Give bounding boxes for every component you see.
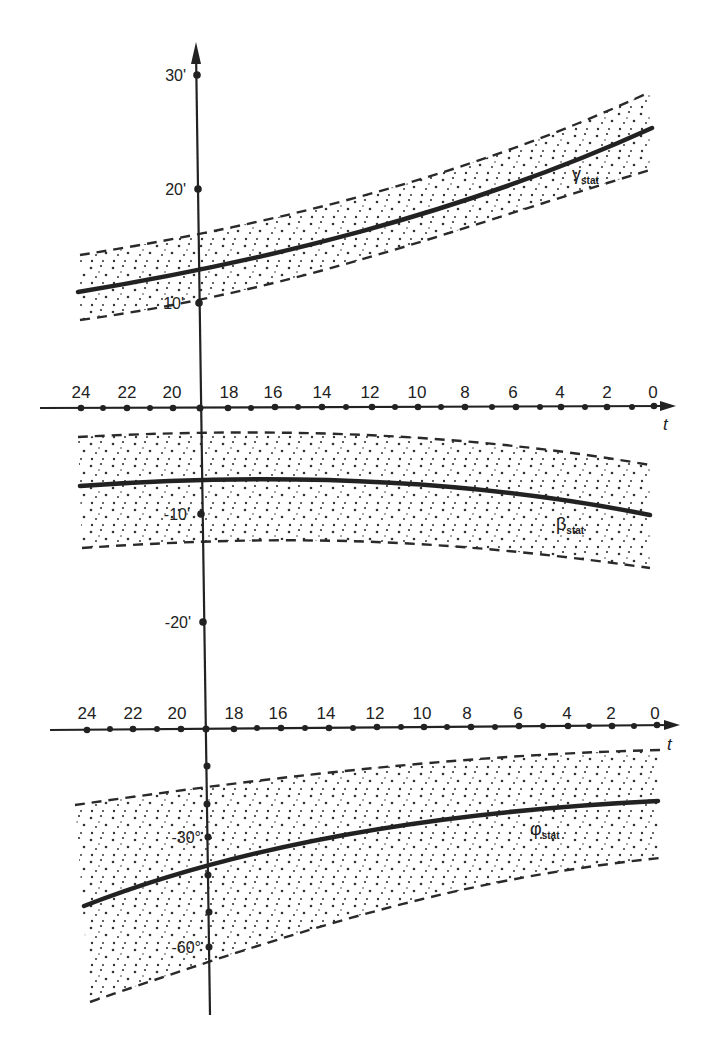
svg-text:20: 20 xyxy=(163,383,182,402)
svg-text:8: 8 xyxy=(462,704,471,723)
y-tick-label-20min: 20' xyxy=(165,181,186,198)
t-axis-2: 24 22 20 18 16 14 12 10 8 6 4 2 0 t xyxy=(50,704,680,754)
phi-panel: φstat xyxy=(75,750,660,1002)
svg-text:16: 16 xyxy=(269,704,288,723)
svg-text:4: 4 xyxy=(555,383,564,402)
svg-text:0: 0 xyxy=(650,704,659,723)
svg-text:4: 4 xyxy=(562,704,571,723)
gamma-panel: γstat xyxy=(78,92,652,320)
chart-figure: γstat βstat φstat xyxy=(0,0,717,1060)
svg-text:16: 16 xyxy=(264,383,283,402)
y-tick-label-neg30deg: -30° xyxy=(171,829,201,846)
y-tick-label-neg60deg: -60° xyxy=(171,939,201,956)
t-axis-1-label: t xyxy=(663,415,669,434)
svg-text:10: 10 xyxy=(413,704,432,723)
y-axis-arrow-icon xyxy=(191,42,201,64)
svg-text:10: 10 xyxy=(408,383,427,402)
svg-text:12: 12 xyxy=(361,383,380,402)
t-axis-1: 24 22 20 18 16 14 12 10 8 6 4 2 0 t xyxy=(40,383,676,434)
svg-text:0: 0 xyxy=(648,383,657,402)
t-axis-1-arrow-icon xyxy=(660,401,676,411)
svg-text:6: 6 xyxy=(513,704,522,723)
y-tick-label-neg10min: -10' xyxy=(164,506,190,523)
beta-panel: βstat xyxy=(78,432,650,568)
t-axis-2-arrow-icon xyxy=(664,720,680,730)
svg-text:12: 12 xyxy=(366,704,385,723)
svg-text:18: 18 xyxy=(220,383,239,402)
gamma-band-fill xyxy=(80,92,650,320)
phi-band-fill xyxy=(75,750,660,1002)
y-tick-label-neg20min: -20' xyxy=(165,614,191,631)
t-axis-2-label: t xyxy=(667,735,673,754)
svg-text:2: 2 xyxy=(602,383,611,402)
svg-text:22: 22 xyxy=(124,704,143,723)
svg-text:6: 6 xyxy=(508,383,517,402)
svg-text:24: 24 xyxy=(78,704,97,723)
y-tick-label-10min: 10' xyxy=(163,295,184,312)
svg-text:8: 8 xyxy=(460,383,469,402)
svg-text:24: 24 xyxy=(72,383,91,402)
t-axis-1-labels: 24 22 20 18 16 14 12 10 8 6 4 2 0 xyxy=(72,383,658,402)
svg-text:14: 14 xyxy=(313,383,332,402)
y-tick-label-30min: 30' xyxy=(165,67,186,84)
svg-text:2: 2 xyxy=(606,704,615,723)
svg-text:20: 20 xyxy=(168,704,187,723)
t-axis-2-labels: 24 22 20 18 16 14 12 10 8 6 4 2 0 xyxy=(78,704,660,723)
svg-text:18: 18 xyxy=(225,704,244,723)
svg-text:14: 14 xyxy=(317,704,336,723)
svg-text:22: 22 xyxy=(118,383,137,402)
